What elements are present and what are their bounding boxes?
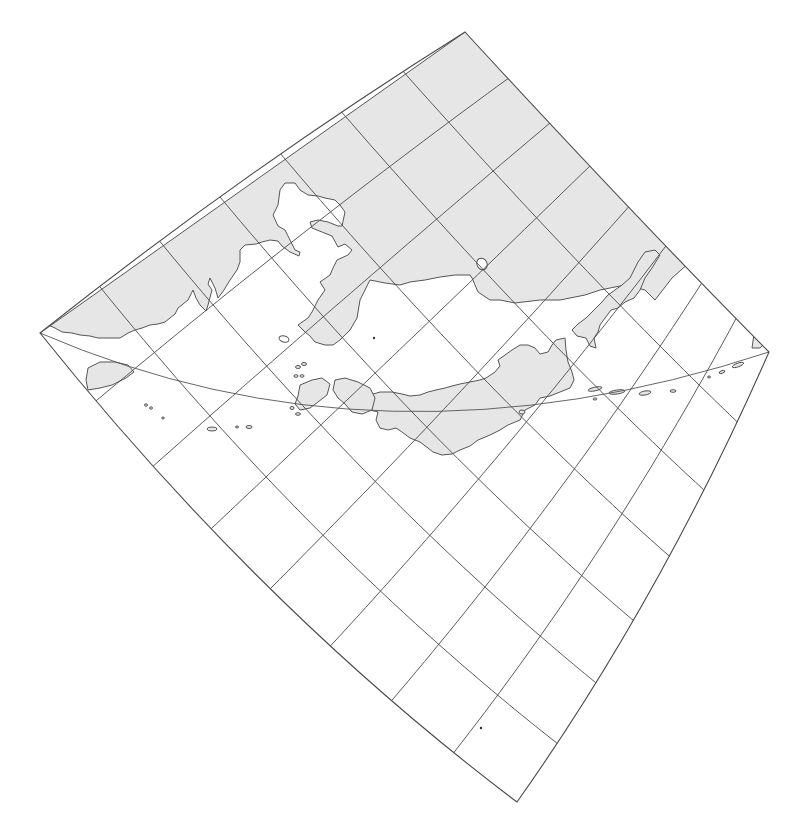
island [145, 404, 148, 406]
island [670, 390, 676, 393]
kyushu [295, 378, 330, 410]
island [302, 363, 307, 366]
island [294, 375, 298, 378]
meridian-line [100, 286, 558, 743]
northern-landmass [40, 32, 700, 345]
map-projection-svg [0, 0, 795, 835]
parallel-line [392, 283, 702, 700]
island [588, 386, 602, 392]
kuril-tip [752, 330, 768, 348]
island-dot [480, 727, 482, 729]
island [300, 375, 304, 378]
island [708, 376, 711, 378]
island [296, 413, 301, 416]
island [290, 407, 294, 410]
map-canvas [0, 0, 795, 835]
island [719, 370, 726, 374]
island [519, 410, 525, 414]
island-dot [373, 337, 375, 339]
island [593, 398, 597, 400]
meridian-line [160, 241, 596, 683]
island [162, 417, 165, 419]
land-layer [40, 32, 768, 455]
island [207, 427, 217, 431]
island [236, 426, 239, 428]
island [150, 407, 153, 409]
island [639, 390, 652, 396]
island [246, 426, 252, 429]
island [732, 361, 745, 368]
island [296, 366, 301, 369]
island-oval [278, 335, 289, 343]
